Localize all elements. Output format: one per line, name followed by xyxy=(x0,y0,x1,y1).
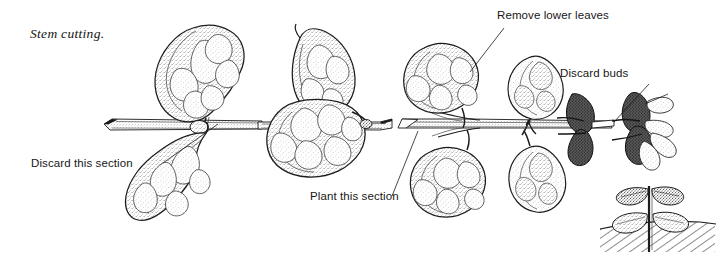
stem-node-left xyxy=(190,121,208,134)
label-remove-lower-leaves: Remove lower leaves xyxy=(497,9,609,21)
stem-cutting-figure: Stem cutting. Discard this section Plant… xyxy=(0,0,722,264)
illustration-canvas: Stem cutting. Discard this section Plant… xyxy=(0,0,722,264)
label-discard-this-section: Discard this section xyxy=(31,157,133,169)
figure-title: Stem cutting. xyxy=(30,26,104,41)
label-discard-buds: Discard buds xyxy=(560,67,628,79)
label-plant-this-section: Plant this section xyxy=(310,190,399,202)
